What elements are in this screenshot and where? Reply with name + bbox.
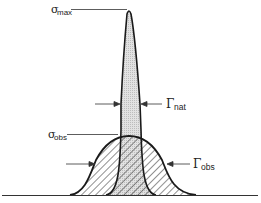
svg-text:max: max	[57, 8, 72, 17]
svg-text:obs: obs	[54, 133, 67, 142]
gamma-obs-label: Γ obs	[193, 157, 215, 172]
sigma-max-label: σ max	[51, 3, 72, 17]
svg-text:obs: obs	[201, 162, 215, 172]
svg-text:nat: nat	[174, 102, 186, 112]
line-profile-diagram: σ max Γ nat σ obs Γ obs	[0, 0, 261, 203]
gamma-nat-label: Γ nat	[166, 97, 186, 112]
sigma-obs-label: σ obs	[48, 128, 67, 142]
